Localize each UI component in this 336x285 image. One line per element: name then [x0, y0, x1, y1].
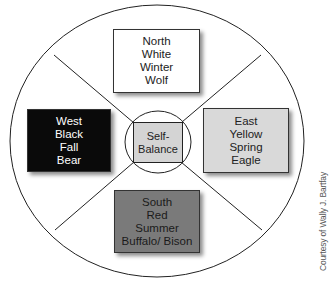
west-direction: West: [56, 115, 82, 128]
south-direction: South: [142, 196, 172, 209]
self-balance-box: Self- Balance: [133, 122, 183, 163]
north-box: North White Winter Wolf: [113, 29, 200, 93]
east-color: Yellow: [230, 128, 263, 141]
east-season: Spring: [229, 141, 262, 154]
west-color: Black: [55, 128, 83, 141]
east-direction: East: [234, 115, 257, 128]
east-box: East Yellow Spring Eagle: [203, 108, 289, 173]
west-box: West Black Fall Bear: [27, 109, 111, 172]
south-season: Summer: [135, 222, 178, 235]
west-season: Fall: [60, 141, 79, 154]
south-color: Red: [146, 209, 167, 222]
south-animal: Buffalo/ Bison: [122, 235, 193, 248]
west-animal: Bear: [57, 154, 81, 167]
east-animal: Eagle: [231, 154, 260, 167]
center-label-line2: Balance: [138, 143, 178, 156]
north-animal: Wolf: [145, 74, 168, 87]
north-direction: North: [142, 35, 170, 48]
center-label-line1: Self-: [147, 130, 170, 143]
north-season: Winter: [140, 61, 173, 74]
north-color: White: [142, 48, 171, 61]
photo-credit: Courtesy of Wally J. Bartfay: [318, 172, 328, 271]
south-box: South Red Summer Buffalo/ Bison: [114, 190, 200, 253]
